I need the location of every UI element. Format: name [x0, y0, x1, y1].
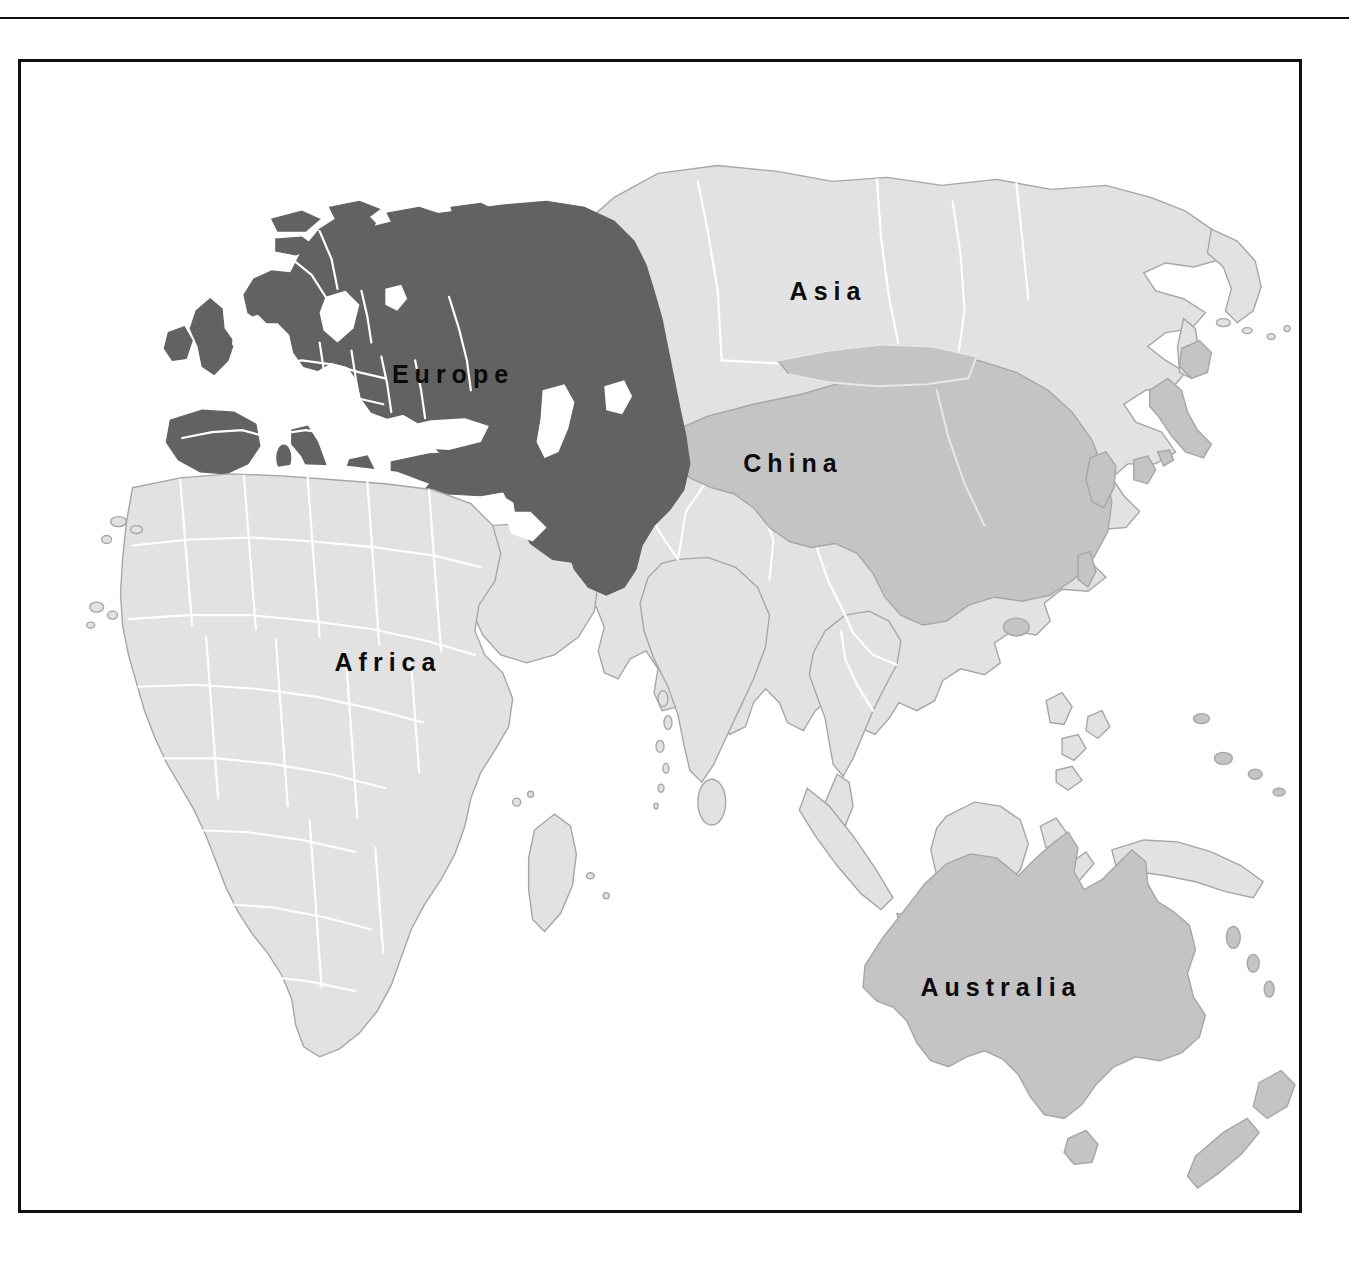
top-rule: [0, 17, 1349, 19]
hainan-island: [1003, 618, 1029, 636]
world-map-svg[interactable]: .land-light { fill:#e2e2e2; stroke:#a6a6…: [21, 62, 1299, 1210]
map-figure: .land-light { fill:#e2e2e2; stroke:#a6a6…: [0, 0, 1349, 1265]
map-frame: .land-light { fill:#e2e2e2; stroke:#a6a6…: [18, 59, 1302, 1213]
sri-lanka: [698, 779, 726, 825]
